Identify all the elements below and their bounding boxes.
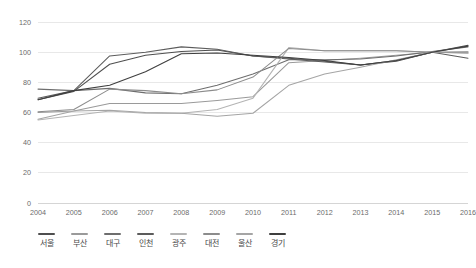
x-axis-tick-label: 2004 [30, 208, 46, 216]
legend-swatch-icon [104, 233, 121, 235]
legend-item-부산[interactable]: 부산 [63, 233, 96, 249]
legend-swatch-icon [269, 233, 286, 235]
legend-item-경기[interactable]: 경기 [261, 233, 294, 249]
plot-area: 020406080100120 200420052006200720082009… [0, 0, 476, 215]
y-axis-tick-label: 80 [23, 78, 31, 87]
chart-canvas: 020406080100120 200420052006200720082009… [0, 0, 476, 215]
gridlines [38, 22, 468, 203]
x-axis-tick-label: 2016 [460, 208, 476, 216]
x-axis-tick-label: 2009 [209, 208, 225, 216]
y-axis-tick-labels: 020406080100120 [19, 18, 31, 208]
x-axis-tick-label: 2010 [245, 208, 261, 216]
line-chart: 020406080100120 200420052006200720082009… [0, 0, 476, 268]
x-axis-tick-label: 2006 [102, 208, 118, 216]
legend-swatch-icon [38, 233, 55, 235]
x-axis-tick-label: 2015 [424, 208, 440, 216]
legend-item-울산[interactable]: 울산 [228, 233, 261, 249]
legend-label: 대전 [205, 239, 219, 249]
legend-label: 경기 [271, 239, 285, 249]
x-axis-tick-label: 2012 [317, 208, 333, 216]
legend-label: 광주 [172, 239, 186, 249]
y-axis-tick-label: 20 [23, 168, 31, 177]
series-line-서울 [38, 45, 468, 99]
legend-swatch-icon [236, 233, 253, 235]
legend-swatch-icon [203, 233, 220, 235]
legend-item-인천[interactable]: 인천 [129, 233, 162, 249]
legend-label: 서울 [40, 239, 54, 249]
y-axis-tick-label: 120 [19, 18, 31, 27]
legend-item-광주[interactable]: 광주 [162, 233, 195, 249]
y-axis-tick-label: 60 [23, 108, 31, 117]
y-axis-tick-label: 100 [19, 48, 31, 57]
x-axis-tick-label: 2008 [173, 208, 189, 216]
x-axis-tick-labels: 2004200520062007200820092010201120122013… [30, 208, 476, 216]
y-axis-tick-label: 40 [23, 138, 31, 147]
legend-item-서울[interactable]: 서울 [30, 233, 63, 249]
y-axis-tick-label: 0 [27, 199, 31, 208]
legend-label: 인천 [139, 239, 153, 249]
legend-label: 부산 [73, 239, 87, 249]
x-axis-tick-label: 2014 [388, 208, 404, 216]
x-axis-tick-label: 2011 [281, 208, 296, 216]
x-axis-tick-label: 2013 [353, 208, 369, 216]
legend-item-대전[interactable]: 대전 [195, 233, 228, 249]
legend-swatch-icon [170, 233, 187, 235]
legend-label: 대구 [106, 239, 120, 249]
legend-swatch-icon [71, 233, 88, 235]
legend-item-대구[interactable]: 대구 [96, 233, 129, 249]
chart-legend: 서울부산대구인천광주대전울산경기 [30, 233, 294, 249]
legend-swatch-icon [137, 233, 154, 235]
legend-label: 울산 [238, 239, 252, 249]
x-axis-tick-label: 2007 [138, 208, 154, 216]
x-axis-tick-label: 2005 [66, 208, 82, 216]
series-line-울산 [38, 51, 468, 119]
